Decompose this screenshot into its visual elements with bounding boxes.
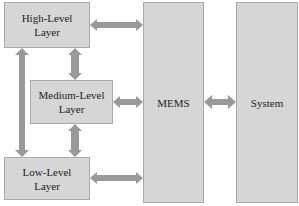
arrow-mems-system xyxy=(204,95,236,109)
high-level-layer-label: High-Level Layer xyxy=(22,11,73,39)
system-box: System xyxy=(236,2,298,203)
medium-level-layer-box: Medium-Level Layer xyxy=(30,80,113,124)
arrow-low-mems xyxy=(90,172,143,184)
arrow-high-mems xyxy=(90,19,143,31)
arrow-medium-low xyxy=(68,124,82,157)
low-level-layer-box: Low-Level Layer xyxy=(4,157,90,200)
low-level-layer-label: Low-Level Layer xyxy=(23,165,72,193)
mems-label: MEMS xyxy=(157,96,189,110)
medium-level-layer-label: Medium-Level Layer xyxy=(39,88,105,116)
system-label: System xyxy=(251,96,283,110)
high-level-layer-box: High-Level Layer xyxy=(4,2,90,48)
arrow-high-low xyxy=(15,48,29,157)
arrow-medium-mems xyxy=(113,96,143,108)
mems-box: MEMS xyxy=(143,2,204,203)
arrow-high-medium xyxy=(68,48,82,80)
